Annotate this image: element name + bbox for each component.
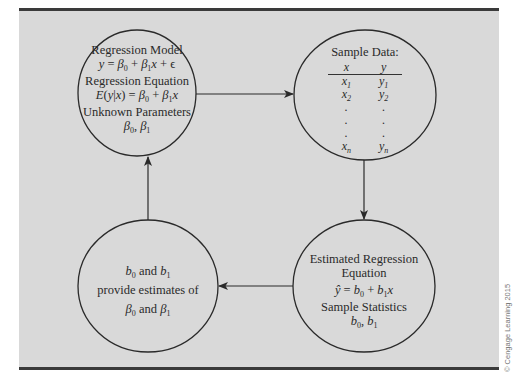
regression-model-node: Regression Model y = β0 + β1x + ϵ Regres… bbox=[77, 43, 197, 133]
table-row: x1y1 bbox=[328, 75, 403, 89]
table-row: .. bbox=[328, 101, 403, 114]
estimated-equation-node: Estimated Regression Equation ŷ = b0 + b… bbox=[299, 252, 429, 328]
table-row: .. bbox=[328, 114, 403, 127]
unknown-parameters: β0, β1 bbox=[77, 119, 197, 133]
sample-statistics: b0, b1 bbox=[299, 314, 429, 328]
estimates-line-1: b0 and b1 bbox=[88, 262, 208, 281]
sample-data-node: Sample Data: x y x1y1 x2y2 .. .. .. xnyn bbox=[305, 45, 425, 153]
estimates-line-2: provide estimates of bbox=[88, 281, 208, 300]
estimates-line-3: β0 and β1 bbox=[88, 300, 208, 319]
copyright-notice: © Cengage Learning 2015 bbox=[503, 284, 512, 372]
sample-data-title: Sample Data: bbox=[305, 45, 425, 59]
unknown-parameters-title: Unknown Parameters bbox=[77, 105, 197, 119]
table-row: xnyn bbox=[328, 140, 403, 153]
regression-equation: E(y|x) = β0 + β1x bbox=[77, 88, 197, 102]
estimated-equation-title-2: Equation bbox=[299, 266, 429, 280]
sample-statistics-title: Sample Statistics bbox=[299, 300, 429, 314]
estimated-equation-title-1: Estimated Regression bbox=[299, 252, 429, 266]
sample-data-table: x y x1y1 x2y2 .. .. .. xnyn bbox=[328, 61, 403, 153]
regression-equation-title: Regression Equation bbox=[77, 74, 197, 88]
table-row: .. bbox=[328, 127, 403, 140]
estimated-equation: ŷ = b0 + b1x bbox=[299, 283, 429, 297]
estimates-node: b0 and b1 provide estimates of β0 and β1 bbox=[88, 262, 208, 319]
column-header-x: x bbox=[328, 61, 365, 75]
column-header-y: y bbox=[365, 61, 402, 75]
table-row: x2y2 bbox=[328, 88, 403, 101]
regression-model-equation: y = β0 + β1x + ϵ bbox=[77, 57, 197, 71]
regression-model-title: Regression Model bbox=[77, 43, 197, 57]
